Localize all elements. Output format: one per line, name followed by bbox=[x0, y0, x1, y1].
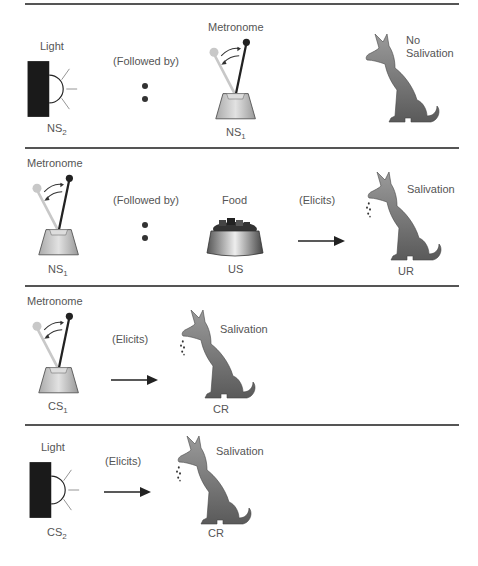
response-label: Salivation bbox=[407, 183, 455, 195]
colon-icon-2 bbox=[142, 235, 148, 241]
relation-label: (Followed by) bbox=[113, 194, 179, 206]
drool-icon bbox=[174, 463, 186, 485]
response-stim-label: CR bbox=[208, 527, 224, 539]
response-stim-label: UR bbox=[398, 265, 414, 277]
arrow-right-icon bbox=[298, 235, 346, 247]
light-label: Light bbox=[40, 40, 64, 52]
response-label: NoSalivation bbox=[406, 34, 454, 60]
colon-icon bbox=[142, 222, 148, 228]
relation-label: (Elicits) bbox=[112, 333, 148, 345]
arrow-right-icon bbox=[104, 486, 152, 498]
metronome-label: Metronome bbox=[208, 21, 264, 33]
food-bowl-icon bbox=[205, 217, 265, 259]
metronome-icon bbox=[28, 310, 82, 400]
colon-icon-2 bbox=[142, 96, 148, 102]
divider-1 bbox=[25, 147, 459, 149]
divider-2 bbox=[25, 285, 459, 287]
stimulus-label: US bbox=[228, 263, 243, 275]
stimulus-label: CS2 bbox=[47, 526, 67, 541]
light-icon bbox=[26, 58, 88, 120]
stimulus-label: NS2 bbox=[47, 122, 67, 137]
relation-label: (Followed by) bbox=[113, 55, 179, 67]
metronome-icon bbox=[28, 172, 82, 262]
relation-label-2: (Elicits) bbox=[299, 194, 335, 206]
response-label: Salivation bbox=[220, 323, 268, 335]
colon-icon bbox=[142, 83, 148, 89]
response-stim-label: CR bbox=[213, 403, 229, 415]
metronome-icon bbox=[205, 36, 259, 126]
food-label: Food bbox=[222, 194, 247, 206]
metronome-label: Metronome bbox=[27, 157, 83, 169]
stimulus-label: NS1 bbox=[226, 126, 246, 141]
light-icon bbox=[28, 459, 90, 521]
stimulus-label: CS1 bbox=[48, 400, 68, 415]
arrow-right-icon bbox=[111, 374, 159, 386]
light-label: Light bbox=[41, 441, 65, 453]
divider-top bbox=[25, 3, 459, 5]
drool-icon bbox=[178, 337, 190, 359]
drool-icon bbox=[364, 199, 376, 221]
metronome-label: Metronome bbox=[27, 295, 83, 307]
relation-label: (Elicits) bbox=[105, 455, 141, 467]
stimulus-label: NS1 bbox=[48, 263, 68, 278]
response-label: Salivation bbox=[216, 445, 264, 457]
divider-3 bbox=[25, 424, 459, 426]
